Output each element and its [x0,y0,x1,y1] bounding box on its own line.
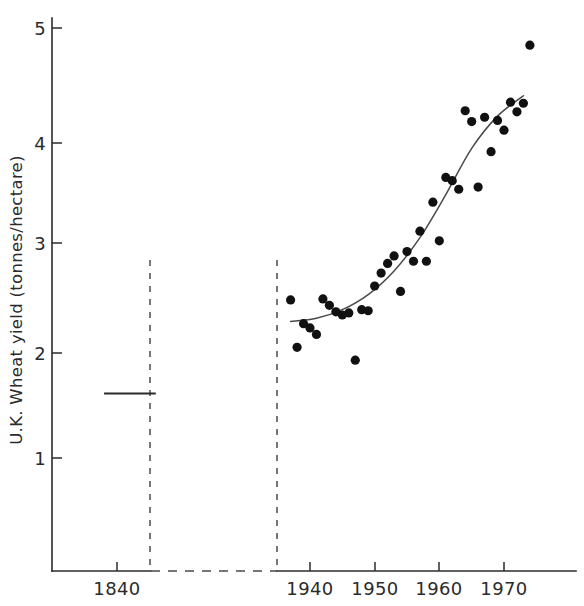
data-point [292,343,301,352]
y-tick-label-1: 1 [34,448,46,469]
data-point [448,176,457,185]
data-point [493,116,502,125]
data-point [312,330,321,339]
data-point [409,257,418,266]
data-point [525,41,534,50]
data-point [286,295,295,304]
data-point [377,269,386,278]
y-tick-label-3: 3 [34,233,46,254]
x-tick-label-1950: 1950 [351,578,398,599]
data-point [364,306,373,315]
data-point [344,308,353,317]
data-point [480,113,489,122]
plot-data-layer [104,41,534,394]
data-point [415,227,424,236]
x-tick-label-1940: 1940 [286,578,333,599]
chart-figure: U.K. Wheat yield (tonnes/hectare) 5 4 3 … [0,0,584,606]
data-point [461,106,470,115]
data-point [402,247,411,256]
data-point [396,287,405,296]
data-point [383,259,392,268]
data-point [351,356,360,365]
data-point [435,236,444,245]
data-point [486,147,495,156]
y-axis-title: U.K. Wheat yield (tonnes/hectare) [7,155,26,445]
x-tick-label-1970: 1970 [480,578,527,599]
y-tick-label-5: 5 [34,18,46,39]
data-point [512,107,521,116]
y-tick-label-2: 2 [34,343,46,364]
x-tick-label-1840: 1840 [93,578,140,599]
data-point [428,198,437,207]
data-point [519,99,528,108]
data-point [389,251,398,260]
x-axis: 1840 1940 1950 1960 1970 [52,562,576,599]
data-point [499,126,508,135]
data-point [506,98,515,107]
axis-break-markers [150,260,277,571]
data-point [370,281,379,290]
y-axis: 5 4 3 2 1 [34,18,62,571]
data-point [422,257,431,266]
data-point [474,183,483,192]
x-tick-label-1960: 1960 [415,578,462,599]
y-tick-label-4: 4 [34,133,46,154]
wheat-yield-scatter-plot: U.K. Wheat yield (tonnes/hectare) 5 4 3 … [0,0,584,606]
data-point [454,185,463,194]
fitted-trend-curve [291,96,524,322]
data-point [467,117,476,126]
